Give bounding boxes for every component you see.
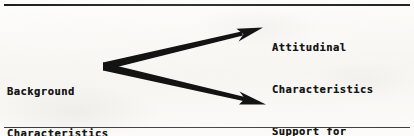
node-attitudinal-characteristics-line2: Characteristics: [272, 82, 374, 96]
node-support-for-actions-of-dissent-line1: Support for: [272, 124, 394, 136]
arrow-to-support-for-actions-of-dissent-icon: [103, 63, 266, 105]
bottom-horizontal-rule: [4, 127, 410, 128]
arrow-to-attitudinal-characteristics-icon: [103, 28, 263, 71]
node-attitudinal-characteristics-line1: Attitudinal: [272, 40, 374, 54]
node-support-for-actions-of-dissent: Support for Actions of Dissent: [272, 96, 394, 136]
figure-container: Background Characteristics Attitudinal C…: [0, 0, 414, 136]
node-background-characteristics-line1: Background: [7, 84, 109, 98]
node-background-characteristics: Background Characteristics: [7, 56, 109, 136]
